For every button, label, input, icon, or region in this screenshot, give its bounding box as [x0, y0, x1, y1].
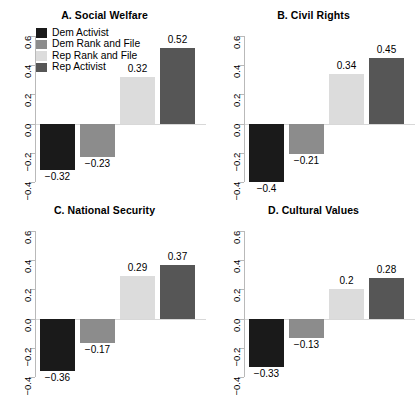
y-axis-tick-label-wrap: 0.2 [209, 284, 237, 294]
bar-value-label: −0.17 [74, 345, 121, 355]
bar-value-label: −0.21 [283, 156, 330, 166]
bar-value-label: 0.28 [363, 265, 410, 275]
panel-d-title: D. Cultural Values [209, 204, 418, 216]
legend-swatch-icon [36, 51, 47, 61]
y-axis-tick-label: 0.6 [23, 36, 33, 49]
bar [369, 58, 404, 124]
y-axis-tick-label: 0.4 [232, 260, 242, 273]
y-axis-tick-label: 0.6 [23, 231, 33, 244]
y-axis-tick-label-wrap: 0.6 [209, 226, 237, 236]
y-axis-tick-label-wrap: 0.4 [209, 60, 237, 70]
legend-item: Rep Activist [36, 62, 140, 74]
legend-item-label: Dem Rank and File [52, 39, 140, 49]
bar [249, 124, 284, 182]
y-axis-tick-label-wrap: 0.0 [0, 119, 28, 129]
y-axis-tick-label-wrap: 0.6 [209, 31, 237, 41]
y-axis-tick-label-wrap: −0.2 [209, 148, 237, 158]
bar-value-label: −0.36 [34, 373, 81, 383]
y-axis-tick-label: 0.2 [232, 289, 242, 302]
bar-value-label: −0.4 [243, 184, 290, 194]
bar [329, 289, 364, 318]
bar-value-label: −0.13 [283, 340, 330, 350]
panel-c-title: C. National Security [0, 204, 209, 216]
bar-value-label: −0.23 [74, 159, 121, 169]
y-axis-tick-label: −0.4 [23, 377, 33, 396]
y-axis-tick-label: 0.4 [23, 65, 33, 78]
panel-a-title: A. Social Welfare [0, 9, 209, 21]
chart-legend: Dem ActivistDem Rank and FileRep Rank an… [36, 27, 140, 73]
y-axis-tick-label: 0.4 [23, 260, 33, 273]
legend-swatch-icon [36, 40, 47, 50]
bar-value-label: 0.2 [323, 276, 370, 286]
bar-value-label: −0.33 [243, 369, 290, 379]
y-axis-line [35, 231, 36, 377]
bar [369, 278, 404, 319]
y-axis-tick-label: −0.2 [23, 153, 33, 172]
bar [80, 319, 115, 344]
panel-a: A. Social Welfare 0.60.40.20.0−0.2−0.4−0… [0, 0, 209, 195]
y-axis-tick-label-wrap: −0.2 [0, 148, 28, 158]
y-axis-tick-label-wrap: 0.0 [209, 314, 237, 324]
legend-item-label: Rep Rank and File [52, 51, 137, 61]
bar-value-label: 0.45 [363, 45, 410, 55]
y-axis-tick-label: 0.0 [23, 318, 33, 331]
y-axis-tick-label: −0.4 [232, 377, 242, 396]
legend-swatch-icon [36, 28, 47, 38]
y-axis-line [244, 231, 245, 377]
legend-item: Rep Rank and File [36, 50, 140, 62]
y-axis-tick-label: 0.2 [23, 94, 33, 107]
y-axis-line [244, 36, 245, 182]
y-axis-tick-label: 0.6 [232, 231, 242, 244]
bar-value-label: −0.32 [34, 172, 81, 182]
y-axis-tick-label-wrap: −0.4 [209, 372, 237, 382]
bar [249, 319, 284, 367]
y-axis-tick-label-wrap: 0.0 [0, 314, 28, 324]
y-axis-tick-label-wrap: −0.4 [0, 372, 28, 382]
bar [40, 124, 75, 171]
bar [40, 319, 75, 372]
legend-swatch-icon [36, 63, 47, 73]
legend-item-label: Rep Activist [52, 62, 106, 72]
bar-value-label: 0.52 [154, 35, 201, 45]
bar [120, 276, 155, 318]
y-axis-tick-label: −0.2 [23, 348, 33, 367]
y-axis-tick-label-wrap: −0.2 [0, 343, 28, 353]
y-axis-tick-label-wrap: 0.6 [0, 31, 28, 41]
bar [160, 48, 195, 124]
y-axis-tick-label-wrap: 0.2 [209, 89, 237, 99]
y-axis-tick-label-wrap: 0.0 [209, 119, 237, 129]
y-axis-tick-label: 0.2 [23, 289, 33, 302]
panel-b-title: B. Civil Rights [209, 9, 418, 21]
panel-b: B. Civil Rights 0.60.40.20.0−0.2−0.4−0.4… [209, 0, 418, 195]
legend-item: Dem Rank and File [36, 39, 140, 51]
y-axis-tick-label-wrap: 0.2 [0, 284, 28, 294]
y-axis-tick-label-wrap: 0.6 [0, 226, 28, 236]
bar [289, 124, 324, 155]
legend-item-label: Dem Activist [52, 28, 109, 38]
bar [329, 74, 364, 124]
y-axis-tick-label: 0.0 [232, 318, 242, 331]
bar-value-label: 0.34 [323, 61, 370, 71]
panel-d: D. Cultural Values 0.60.40.20.0−0.2−0.4−… [209, 195, 418, 390]
y-axis-tick-label: 0.6 [232, 36, 242, 49]
y-axis-tick-label-wrap: 0.4 [0, 255, 28, 265]
bar [120, 77, 155, 124]
legend-item: Dem Activist [36, 27, 140, 39]
bar-value-label: 0.29 [114, 263, 161, 273]
bar [289, 319, 324, 338]
y-axis-tick-label-wrap: 0.4 [209, 255, 237, 265]
y-axis-tick-label-wrap: −0.4 [0, 177, 28, 187]
y-axis-tick-label: 0.0 [232, 123, 242, 136]
y-axis-tick-label-wrap: 0.4 [0, 60, 28, 70]
panel-c: C. National Security 0.60.40.20.0−0.2−0.… [0, 195, 209, 390]
bar [80, 124, 115, 158]
y-axis-tick-label: −0.2 [232, 153, 242, 172]
y-axis-tick-label: 0.0 [23, 123, 33, 136]
y-axis-tick-label: −0.2 [232, 348, 242, 367]
bar-value-label: 0.37 [154, 252, 201, 262]
y-axis-tick-label: 0.2 [232, 94, 242, 107]
y-axis-tick-label-wrap: −0.2 [209, 343, 237, 353]
y-axis-tick-label: 0.4 [232, 65, 242, 78]
y-axis-tick-label-wrap: 0.2 [0, 89, 28, 99]
